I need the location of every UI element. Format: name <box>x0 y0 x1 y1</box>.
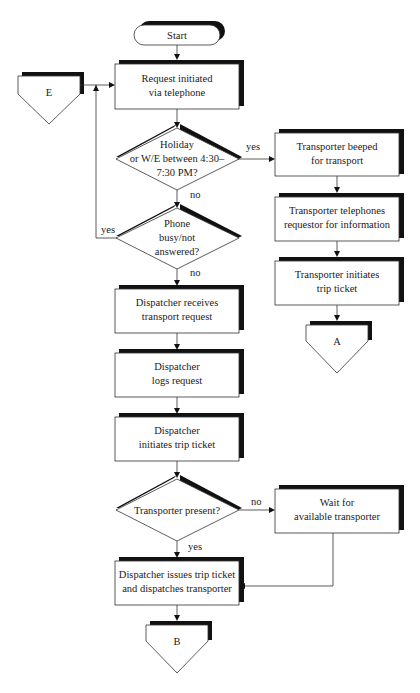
connector-b-label: B <box>173 636 180 647</box>
present-yes-label: yes <box>188 541 202 552</box>
beeped-line1: Transporter beeped <box>297 141 379 152</box>
beeped-line2: for transport <box>311 155 363 166</box>
dispatcher-receives-box: Dispatcher receives transport request <box>115 285 244 333</box>
transporter-initiates-box: Transporter initiates trip ticket <box>275 257 404 305</box>
dispatcher-initiates-box: Dispatcher initiates trip ticket <box>115 413 244 461</box>
wait-line1: Wait for <box>320 497 355 508</box>
request-initiated-box: Request initiated via telephone <box>115 60 244 109</box>
off-page-connector-b: B <box>146 621 212 673</box>
transporter-present-decision: Transporter present? <box>116 475 242 541</box>
phone-busy-decision: Phone busy/not answered? <box>116 204 242 269</box>
holiday-line2: or W/E between 4:30– <box>130 153 225 164</box>
receives-line1: Dispatcher receives <box>136 297 219 308</box>
start-label: Start <box>167 30 187 41</box>
request-line2: via telephone <box>149 87 206 98</box>
issues-line1: Dispatcher issues trip ticket <box>119 569 235 580</box>
holiday-yes-label: yes <box>246 141 260 152</box>
off-page-connector-a: A <box>306 321 372 373</box>
wait-line2: available transporter <box>294 511 381 522</box>
wait-transporter-box: Wait for available transporter <box>275 485 404 533</box>
phone-line2: busy/not <box>159 232 195 243</box>
present-no-label: no <box>251 496 262 507</box>
phone-line3: answered? <box>155 246 200 257</box>
issues-line2: and dispatches transporter <box>122 583 232 594</box>
holiday-decision: Holiday or W/E between 4:30– 7:30 PM? <box>116 124 242 190</box>
holiday-line1: Holiday <box>160 139 195 150</box>
phone-yes-label: yes <box>101 224 115 235</box>
disp-initiates-line1: Dispatcher <box>154 425 200 436</box>
start-terminator: Start <box>134 21 225 45</box>
disp-initiates-line2: initiates trip ticket <box>139 439 215 450</box>
transporter-beeped-box: Transporter beeped for transport <box>275 129 404 176</box>
telephones-line2: requestor for information <box>284 219 391 230</box>
flowchart: Start Request initiated via telephone E … <box>0 0 420 693</box>
holiday-line3: 7:30 PM? <box>156 167 197 178</box>
dispatcher-issues-box: Dispatcher issues trip ticket and dispat… <box>115 557 244 605</box>
phone-no-label: no <box>190 267 201 278</box>
logs-line2: logs request <box>152 375 203 386</box>
receives-line2: transport request <box>142 311 212 322</box>
phone-line1: Phone <box>164 218 191 229</box>
holiday-no-label: no <box>190 189 201 200</box>
logs-line1: Dispatcher <box>154 361 200 372</box>
telephones-line1: Transporter telephones <box>289 205 385 216</box>
off-page-connector-e: E <box>18 72 84 124</box>
dispatcher-logs-box: Dispatcher logs request <box>115 349 244 397</box>
request-line1: Request initiated <box>142 73 214 84</box>
present-line1: Transporter present? <box>134 505 221 516</box>
connector-a-label: A <box>333 336 341 347</box>
transporter-telephones-box: Transporter telephones requestor for inf… <box>275 193 404 241</box>
connector-e-label: E <box>46 87 52 98</box>
trans-initiates-line1: Transporter initiates <box>295 269 379 280</box>
trans-initiates-line2: trip ticket <box>317 283 358 294</box>
